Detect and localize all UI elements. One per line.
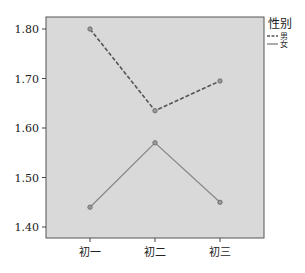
- x-axis: 初一初二初三: [79, 238, 231, 259]
- y-tick-label: 1.70: [15, 73, 40, 86]
- y-axis: 1.401.501.601.701.80: [15, 23, 47, 234]
- line-chart: 1.401.501.601.701.80 初一初二初三 性别 男女: [0, 0, 305, 273]
- data-point-marker: [218, 200, 222, 204]
- legend-title: 性别: [268, 17, 292, 31]
- x-tick-label: 初二: [144, 245, 166, 259]
- y-tick-label: 1.60: [15, 122, 40, 135]
- y-tick-label: 1.80: [15, 23, 40, 36]
- data-point-marker: [88, 205, 92, 209]
- legend: 性别 男女: [267, 17, 292, 49]
- data-point-marker: [153, 141, 157, 145]
- legend-label: 女: [280, 39, 288, 49]
- data-point-marker: [218, 79, 222, 83]
- y-tick-label: 1.40: [15, 221, 40, 234]
- data-point-marker: [88, 27, 92, 31]
- data-point-marker: [153, 109, 157, 113]
- y-tick-label: 1.50: [15, 172, 40, 185]
- x-tick-label: 初三: [209, 245, 231, 259]
- plot-area: [46, 17, 264, 238]
- x-tick-label: 初一: [79, 245, 101, 259]
